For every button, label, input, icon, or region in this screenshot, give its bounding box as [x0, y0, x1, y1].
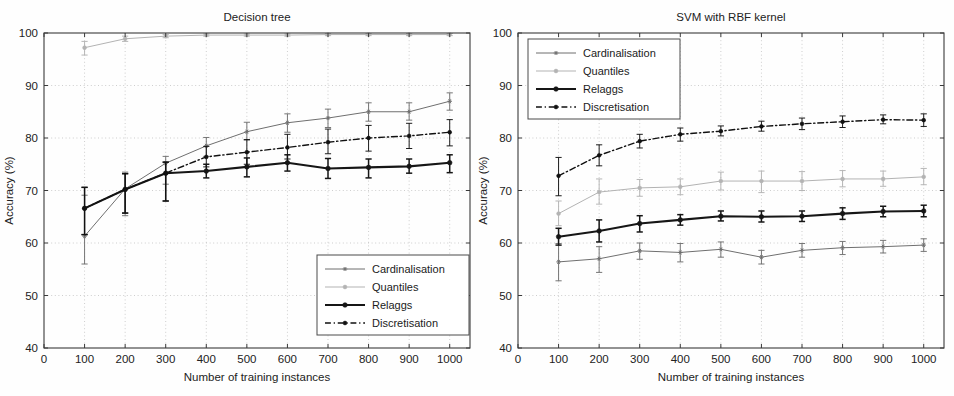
y-tick-label: 90	[25, 80, 38, 92]
x-tick-label: 900	[400, 353, 419, 365]
x-tick-label: 100	[75, 353, 94, 365]
legend-label: Relaggs	[372, 299, 413, 311]
x-tick-label: 600	[278, 353, 297, 365]
y-tick-label: 70	[25, 185, 38, 197]
y-tick-label: 50	[499, 290, 512, 302]
y-tick-label: 100	[493, 27, 512, 39]
y-tick-label: 70	[499, 185, 512, 197]
series-relaggs	[81, 155, 452, 235]
error-bars	[555, 239, 926, 281]
x-tick-label: 1000	[437, 353, 463, 365]
legend-marker-icon	[343, 285, 347, 289]
y-tick-label: 90	[499, 80, 512, 92]
legend-label: Discretisation	[583, 101, 649, 113]
x-tick-label: 1000	[911, 353, 937, 365]
x-axis-label: Number of training instances	[658, 371, 805, 383]
y-axis-label: Accuracy (%)	[3, 156, 15, 225]
x-tick-label: 800	[359, 353, 378, 365]
legend-marker-icon	[554, 87, 559, 92]
y-tick-label: 60	[499, 237, 512, 249]
series-line	[85, 101, 450, 236]
series-line	[85, 163, 450, 209]
chart-title: Decision tree	[223, 11, 290, 23]
x-axis-label: Number of training instances	[184, 371, 331, 383]
x-tick-label: 700	[318, 353, 337, 365]
chart-svm-rbf: SVM with RBF kernel010020030040050060070…	[474, 0, 954, 396]
legend-marker-icon	[343, 303, 348, 308]
y-tick-label: 80	[499, 132, 512, 144]
y-tick-label: 40	[499, 342, 512, 354]
x-tick-label: 400	[671, 353, 690, 365]
data-points	[556, 209, 926, 239]
chart-title: SVM with RBF kernel	[676, 11, 785, 23]
x-tick-label: 800	[833, 353, 852, 365]
x-tick-label: 100	[549, 353, 568, 365]
series-relaggs	[555, 205, 926, 245]
x-tick-label: 0	[41, 353, 47, 365]
x-tick-label: 400	[197, 353, 216, 365]
series-layer	[555, 114, 926, 281]
x-tick-label: 700	[792, 353, 811, 365]
series-discretisation	[81, 120, 452, 235]
chart-panel-svm-rbf: SVM with RBF kernel010020030040050060070…	[474, 0, 954, 396]
x-tick-label: 500	[237, 353, 256, 365]
y-axis-label: Accuracy (%)	[477, 156, 489, 225]
legend-label: Cardinalisation	[583, 47, 656, 59]
series-discretisation	[555, 114, 926, 196]
y-tick-label: 100	[19, 27, 38, 39]
legend-label: Quantiles	[583, 65, 630, 77]
x-tick-label: 200	[116, 353, 135, 365]
series-line	[85, 132, 450, 208]
y-tick-label: 60	[25, 237, 38, 249]
error-bars	[81, 34, 452, 56]
legend-label: Relaggs	[583, 83, 624, 95]
y-tick-label: 80	[25, 132, 38, 144]
series-line	[559, 177, 924, 214]
series-line	[559, 211, 924, 237]
legend[interactable]: CardinalisationQuantilesRelaggsDiscretis…	[317, 255, 469, 335]
y-tick-label: 50	[25, 290, 38, 302]
x-tick-label: 600	[752, 353, 771, 365]
series-layer	[81, 33, 452, 264]
error-bars	[555, 114, 926, 196]
series-cardinalisation	[81, 93, 452, 264]
chart-panel-decision-tree: Decision tree010020030040050060070080090…	[0, 0, 480, 396]
legend-marker-icon	[554, 69, 558, 73]
x-tick-label: 500	[711, 353, 730, 365]
series-quantiles	[81, 33, 452, 55]
y-tick-label: 40	[25, 342, 38, 354]
figure-canvas: Decision tree010020030040050060070080090…	[0, 0, 954, 396]
legend-label: Quantiles	[372, 281, 419, 293]
legend-label: Cardinalisation	[372, 263, 445, 275]
series-line	[559, 245, 924, 262]
data-points	[82, 99, 452, 238]
data-points	[557, 118, 926, 178]
x-tick-label: 300	[156, 353, 175, 365]
error-bars	[81, 93, 452, 264]
series-line	[559, 120, 924, 176]
series-cardinalisation	[555, 239, 926, 281]
legend[interactable]: CardinalisationQuantilesRelaggsDiscretis…	[528, 39, 680, 119]
x-tick-label: 0	[515, 353, 521, 365]
x-tick-label: 200	[590, 353, 609, 365]
legend-marker-icon	[554, 105, 558, 109]
data-points	[83, 130, 452, 210]
legend-marker-icon	[343, 321, 347, 325]
legend-label: Discretisation	[372, 317, 438, 329]
chart-decision-tree: Decision tree010020030040050060070080090…	[0, 0, 480, 396]
series-line	[85, 35, 450, 48]
x-tick-label: 300	[630, 353, 649, 365]
x-tick-label: 900	[874, 353, 893, 365]
